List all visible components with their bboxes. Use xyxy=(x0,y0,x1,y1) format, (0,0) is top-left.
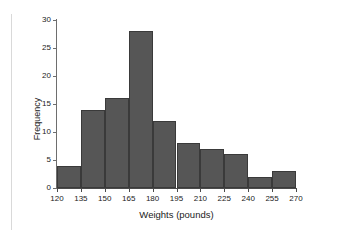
y-tick-mark xyxy=(53,76,57,77)
x-tick-label: 150 xyxy=(98,194,111,203)
x-tick-label: 240 xyxy=(242,194,255,203)
x-tick-mark xyxy=(177,188,178,192)
x-tick-mark xyxy=(153,188,154,192)
y-tick-label: 5 xyxy=(47,156,51,164)
x-tick-label: 165 xyxy=(122,194,135,203)
histogram-bar xyxy=(105,98,129,188)
histogram-bar xyxy=(272,171,296,188)
y-tick-label: 10 xyxy=(42,128,51,136)
histogram-bar xyxy=(57,166,81,188)
x-tick-mark xyxy=(296,188,297,192)
x-tick-label: 135 xyxy=(74,194,87,203)
plot-area: 051015202530 120135150165180195210225240… xyxy=(57,20,296,188)
histogram-bar xyxy=(200,149,224,188)
x-tick-label: 270 xyxy=(289,194,302,203)
y-tick-label: 20 xyxy=(42,72,51,80)
x-tick-label: 210 xyxy=(194,194,207,203)
x-tick-mark xyxy=(57,188,58,192)
x-tick-mark xyxy=(200,188,201,192)
histogram-bar xyxy=(248,177,272,188)
page-edge-artifact xyxy=(11,14,12,230)
histogram-bar xyxy=(81,110,105,188)
histogram-figure: Frequency Weights (pounds) 051015202530 … xyxy=(0,0,352,238)
x-tick-mark xyxy=(224,188,225,192)
histogram-bar xyxy=(129,31,153,188)
y-tick-mark xyxy=(53,20,57,21)
x-tick-label: 195 xyxy=(170,194,183,203)
histogram-bar xyxy=(153,121,177,188)
histogram-bar xyxy=(224,154,248,188)
y-tick-label: 25 xyxy=(42,44,51,52)
x-tick-mark xyxy=(81,188,82,192)
x-axis-title: Weights (pounds) xyxy=(57,209,296,220)
y-tick-label: 15 xyxy=(42,100,51,108)
x-tick-label: 225 xyxy=(218,194,231,203)
histogram-bar xyxy=(177,143,201,188)
x-tick-label: 180 xyxy=(146,194,159,203)
y-tick-mark xyxy=(53,132,57,133)
y-tick-mark xyxy=(53,104,57,105)
x-tick-label: 255 xyxy=(265,194,278,203)
y-tick-label: 0 xyxy=(47,184,51,192)
x-tick-mark xyxy=(129,188,130,192)
x-tick-label: 120 xyxy=(50,194,63,203)
x-tick-mark xyxy=(248,188,249,192)
y-tick-label: 30 xyxy=(42,16,51,24)
y-tick-mark xyxy=(53,48,57,49)
y-axis-title: Frequency xyxy=(32,98,42,141)
x-tick-mark xyxy=(105,188,106,192)
x-tick-mark xyxy=(272,188,273,192)
y-tick-mark xyxy=(53,160,57,161)
